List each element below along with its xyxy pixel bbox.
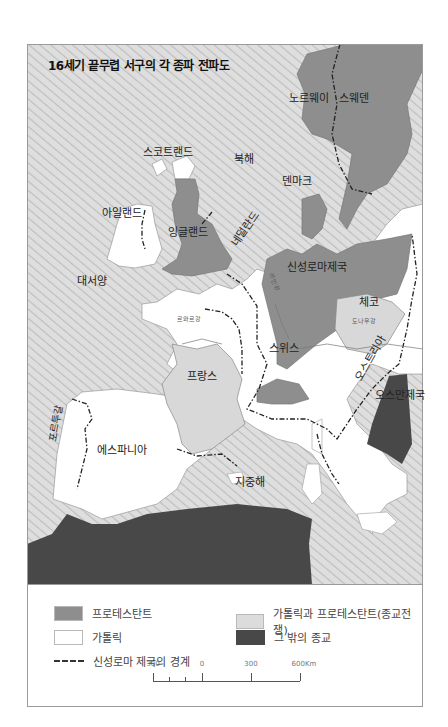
legend-item-protestant: 프로테스탄트	[54, 605, 152, 621]
scale-tick	[169, 677, 170, 681]
legend-item-other: 그 밖의 종교	[236, 629, 331, 645]
scale-tick	[251, 673, 252, 681]
swatch-other	[236, 630, 265, 645]
map	[27, 44, 423, 585]
scale-tick	[185, 677, 186, 681]
label-danube: 도나우강	[352, 316, 376, 325]
label-mediterranean: 지중해	[235, 473, 265, 489]
label-spain: 에스파니아	[97, 441, 147, 457]
label-scotland: 스코트랜드	[143, 143, 193, 159]
label-atlantic: 대서양	[77, 272, 107, 288]
label-england: 잉글랜드	[168, 223, 208, 239]
legend-label: 프로테스탄트	[92, 605, 152, 621]
map-title: 16세기 끝무렵 서구의 각 종파 전파도	[48, 56, 229, 73]
scale-bar: 300 0 300 600Km	[148, 660, 308, 690]
label-france: 프랑스	[187, 367, 217, 383]
swatch-mixed	[236, 614, 264, 629]
north-africa-region	[27, 504, 312, 585]
swatch-protestant	[54, 606, 83, 621]
label-north-sea: 북해	[234, 150, 254, 166]
scale-tick-label: 0	[200, 660, 204, 668]
label-hre: 신성로마제국	[287, 258, 347, 274]
scale-tick-label: 600Km	[292, 660, 317, 668]
scale-tick	[153, 673, 154, 681]
scale-tick	[202, 673, 203, 681]
label-denmark: 덴마크	[282, 172, 312, 188]
swatch-catholic	[54, 630, 83, 645]
label-sweden: 스웨덴	[339, 89, 369, 105]
legend-item-catholic: 가톨릭	[54, 629, 122, 645]
scale-tick	[300, 673, 301, 681]
label-loire: 르와르강	[177, 314, 201, 323]
label-switzerland: 스위스	[269, 339, 299, 355]
legend-label: 그 밖의 종교	[274, 629, 331, 645]
scale-line	[153, 681, 300, 682]
scale-tick-label: 300	[146, 660, 159, 668]
dashed-line-icon	[54, 660, 84, 662]
label-czech: 체코	[359, 293, 379, 309]
legend-label: 가톨릭	[92, 629, 122, 645]
scale-tick-label: 300	[244, 660, 257, 668]
label-ottoman: 오스만제국	[375, 386, 425, 402]
label-norway: 노르웨이	[289, 89, 329, 105]
label-ireland: 아일랜드	[102, 204, 142, 220]
